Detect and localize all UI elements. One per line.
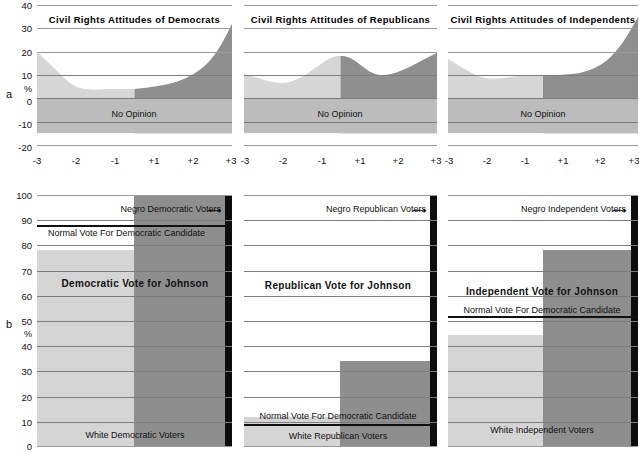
gridline-b1-30: [37, 371, 232, 372]
bar-negro-independent-voters: [543, 250, 631, 447]
ytick-b-0: 0: [2, 441, 32, 452]
ytick-a-10: 10: [2, 70, 32, 81]
label-democratic-vote-for-johnson: Democratic Vote for Johnson: [62, 278, 209, 289]
gridline-b1-60: [37, 296, 232, 297]
panel-title-a-democrats: Civil Rights Attitudes of Democrats: [37, 14, 232, 25]
label-negro-independent-voters: Negro Independent Voters: [521, 204, 626, 214]
xtick-a3-pos1: +1: [558, 155, 569, 166]
xtick-a3-pos3: +3: [629, 155, 639, 166]
xtick-a1-neg2: -2: [72, 155, 80, 166]
normal-vote-line-b-independents: [448, 316, 638, 318]
plot-area-a-republicans: No Opinion: [244, 5, 437, 146]
no-opinion-label-a-republicans: No Opinion: [317, 109, 362, 119]
gridline-b3-50: [448, 321, 638, 322]
gridline-a1-30: [37, 28, 232, 29]
label-negro-democratic-voters: Negro Democratic Voters: [120, 204, 221, 214]
gridline-a2-30: [244, 28, 437, 29]
ytick-a-neg20: -20: [2, 142, 32, 153]
gridline-a1-40: [37, 5, 232, 6]
normal-vote-line-b-democrats: [37, 225, 232, 227]
label-white-democratic-voters: White Democratic Voters: [85, 430, 184, 440]
panel-b-democrats: Negro Democratic Voters ⟶ Normal Vote Fo…: [37, 195, 232, 447]
no-opinion-label-a-democrats: No Opinion: [111, 109, 156, 119]
gridline-b1-70: [37, 271, 232, 272]
xtick-a1-pos3: +3: [226, 155, 237, 166]
gridline-b3-40: [448, 346, 638, 347]
xtick-a1-pos2: +2: [188, 155, 199, 166]
xtick-a2-neg2: -2: [279, 155, 287, 166]
xtick-a2-neg1: -1: [318, 155, 326, 166]
gridline-a3-30: [448, 28, 638, 29]
gridline-a3-20: [448, 52, 638, 53]
ytick-b-20: 20: [2, 391, 32, 402]
gridline-a2-0: [244, 98, 437, 99]
panel-a-democrats: No Opinion Civil Rights Attitudes of Dem…: [37, 5, 232, 146]
ytick-b-80: 80: [2, 240, 32, 251]
gridline-b1-20: [37, 397, 232, 398]
ytick-b-70: 70: [2, 265, 32, 276]
gridline-b3-0: [448, 446, 638, 447]
plot-area-b-republicans: Negro Republican Voters ⟶ Republican Vot…: [244, 195, 437, 447]
plot-area-a-democrats: No Opinion: [37, 5, 232, 146]
panel-a-republicans: No Opinion Civil Rights Attitudes of Rep…: [244, 5, 437, 146]
xtick-a2-pos1: +1: [355, 155, 366, 166]
label-normal-vote-b-democrats: Normal Vote For Democratic Candidate: [48, 228, 205, 238]
label-normal-vote-b-independents: Normal Vote For Democratic Candidate: [463, 305, 620, 315]
gridline-b2-30: [244, 371, 437, 372]
xtick-a1-neg3: -3: [33, 155, 41, 166]
ytick-b-30: 30: [2, 366, 32, 377]
panel-a-independents: No Opinion Civil Rights Attitudes of Ind…: [448, 5, 638, 146]
xtick-a3-neg1: -1: [521, 155, 529, 166]
gridline-a1-10: [37, 75, 232, 76]
ytick-b-60: 60: [2, 290, 32, 301]
label-white-independent-voters: White Independent Voters: [490, 425, 594, 435]
label-white-republican-voters: White Republican Voters: [289, 431, 388, 441]
plot-area-b-democrats: Negro Democratic Voters ⟶ Normal Vote Fo…: [37, 195, 232, 447]
gridline-b1-80: [37, 245, 232, 246]
gridline-a2-neg10: [244, 122, 437, 123]
gridline-b3-30: [448, 371, 638, 372]
plot-area-b-independents: Negro Independent Voters ⟶ Independent V…: [448, 195, 638, 447]
normal-vote-line-b-republicans: [244, 424, 437, 426]
gridline-b3-90: [448, 220, 638, 221]
ytick-a-40: 40: [2, 0, 32, 11]
plot-area-a-independents: No Opinion: [448, 5, 638, 146]
gridline-a3-10: [448, 75, 638, 76]
gridline-b2-0: [244, 446, 437, 447]
gridline-a3-40: [448, 5, 638, 6]
gridline-a1-20: [37, 52, 232, 53]
gridline-b1-10: [37, 422, 232, 423]
label-independent-vote-for-johnson: Independent Vote for Johnson: [466, 286, 618, 297]
gridline-a1-neg20: [37, 145, 232, 146]
panel-b-republicans: Negro Republican Voters ⟶ Republican Vot…: [244, 195, 437, 447]
ytick-b-90: 90: [2, 215, 32, 226]
gridline-b3-10: [448, 422, 638, 423]
ytick-a-30: 30: [2, 23, 32, 34]
panel-title-a-independents: Civil Rights Attitudes of Independents: [448, 14, 638, 25]
panel-title-a-republicans: Civil Rights Attitudes of Republicans: [244, 14, 437, 25]
arrow-right-icon-b2: ⟶: [412, 206, 426, 216]
gridline-b3-70: [448, 271, 638, 272]
gridline-b2-40: [244, 346, 437, 347]
gridline-a2-20: [244, 52, 437, 53]
gridline-b1-50: [37, 321, 232, 322]
xtick-a1-neg1: -1: [111, 155, 119, 166]
gridline-b1-90: [37, 220, 232, 221]
gridline-a2-10: [244, 75, 437, 76]
ytick-a-neg10: -10: [2, 119, 32, 130]
gridline-b2-100: [244, 195, 437, 196]
no-opinion-label-a-independents: No Opinion: [520, 109, 565, 119]
ytick-a-20: 20: [2, 46, 32, 57]
gridline-a1-0: [37, 98, 232, 99]
xtick-a3-pos2: +2: [595, 155, 606, 166]
gridline-b2-10: [244, 422, 437, 423]
gridline-b3-100: [448, 195, 638, 196]
gridline-b1-40: [37, 346, 232, 347]
gridline-b2-80: [244, 245, 437, 246]
label-republican-vote-for-johnson: Republican Vote for Johnson: [265, 280, 411, 291]
gridline-a2-neg20: [244, 145, 437, 146]
ytick-b-40: 40: [2, 341, 32, 352]
xtick-a2-pos3: +3: [431, 155, 442, 166]
xtick-a2-pos2: +2: [393, 155, 404, 166]
